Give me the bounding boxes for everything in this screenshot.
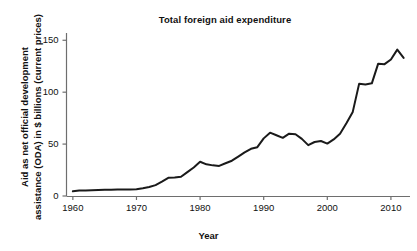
y-axis-tick-label: 0 xyxy=(25,191,59,201)
y-axis-tick-label: 150 xyxy=(25,35,59,45)
x-axis-tick-label: 1960 xyxy=(53,203,93,213)
data-series-line xyxy=(73,50,404,192)
y-axis-tick-label: 50 xyxy=(25,139,59,149)
x-axis-tick-label: 1980 xyxy=(180,203,220,213)
x-axis-tick-label: 2000 xyxy=(307,203,347,213)
x-axis-tick-label: 2010 xyxy=(371,203,411,213)
x-axis-tick-label: 1990 xyxy=(244,203,284,213)
axes-group xyxy=(63,33,411,200)
plot-area xyxy=(0,0,417,251)
y-axis-tick-label: 100 xyxy=(25,87,59,97)
chart-figure: Total foreign aid expenditure Aid as net… xyxy=(0,0,417,251)
x-axis-tick-label: 1970 xyxy=(116,203,156,213)
